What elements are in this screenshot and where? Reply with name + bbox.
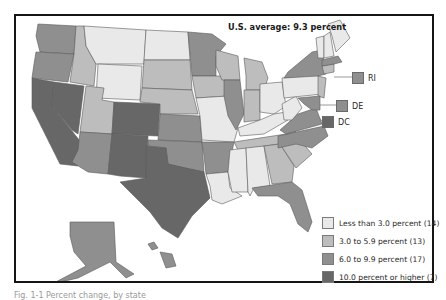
state-mt [84,26,146,64]
map-frame: U.S. average: 9.3 percent RI DE DC Less … [14,14,434,283]
state-wa [36,24,76,54]
state-nd [144,30,190,60]
legend-swatch [322,253,334,265]
legend-item: 6.0 to 9.9 percent (17) [322,250,439,268]
state-ks [158,114,202,142]
legend-swatch [322,235,334,247]
legend-label: 6.0 to 9.9 percent (17) [339,255,425,264]
callout-de: DE [336,100,363,112]
state-co [112,102,160,136]
state-ak [52,222,134,281]
legend-swatch [322,271,334,283]
state-fl [252,182,312,232]
state-nm [108,134,148,178]
callout-ri-label: RI [368,74,376,83]
state-nj [318,76,326,98]
legend-swatch [322,217,334,229]
state-hi [148,242,176,268]
callout-ri: RI [352,72,376,84]
state-or [32,52,74,82]
legend-item: Less than 3.0 percent (14) [322,214,439,232]
legend-item: 10.0 percent or higher (7) [322,268,439,286]
callout-ri-swatch [352,72,364,84]
map-title: U.S. average: 9.3 percent [228,22,346,32]
legend-label: 3.0 to 5.9 percent (13) [339,237,425,246]
callout-de-swatch [336,100,348,112]
state-in [244,90,260,122]
legend-item: 3.0 to 5.9 percent (13) [322,232,439,250]
state-sd [142,60,192,90]
state-wi [216,50,240,80]
callout-de-label: DE [352,102,363,111]
callout-dc-swatch [322,116,334,128]
legend-label: 10.0 percent or higher (7) [339,273,438,282]
callout-dc: DC [322,116,350,128]
figure-caption: Fig. 1-1 Percent change, by state [14,291,146,300]
legend-label: Less than 3.0 percent (14) [339,219,439,228]
map-legend: Less than 3.0 percent (14) 3.0 to 5.9 pe… [322,214,439,286]
state-oh [260,82,286,114]
callout-dc-label: DC [338,118,350,127]
state-ms [228,148,248,192]
